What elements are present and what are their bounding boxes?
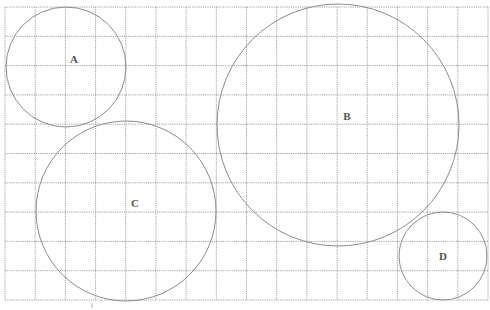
circle-shape (217, 4, 459, 246)
circle-b: B (217, 4, 459, 246)
grid-lines (5, 7, 488, 300)
circle-label: A (70, 53, 78, 65)
circle-d: D (399, 212, 487, 300)
circle-label: B (343, 110, 351, 122)
diagram-canvas: ABCD (0, 0, 490, 310)
circle-a: A (6, 7, 126, 127)
circle-label: C (131, 197, 139, 209)
circle-label: D (439, 250, 447, 262)
circle-shape (6, 7, 126, 127)
